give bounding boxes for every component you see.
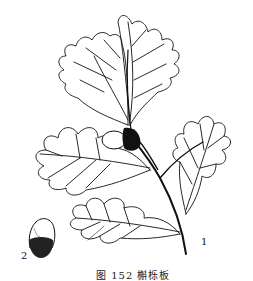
- acorn-on-branch: [102, 128, 158, 170]
- figure-label-2: 2: [21, 251, 27, 261]
- figure-caption: 图 152 槲栎板: [96, 271, 170, 281]
- leaf-bottom: [70, 198, 180, 243]
- leaf-top-left: [59, 33, 128, 125]
- acorn-detail: [29, 219, 55, 258]
- figure-label-1: 1: [201, 237, 207, 247]
- leaf-right: [173, 117, 231, 215]
